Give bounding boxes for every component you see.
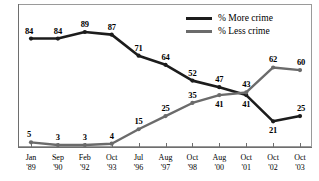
- value-label: 64: [161, 53, 169, 62]
- x-label-year: '01: [240, 163, 252, 173]
- value-label: 43: [242, 80, 250, 89]
- value-label: 60: [297, 58, 305, 67]
- data-point-marker: [110, 33, 114, 37]
- value-label: 3: [56, 133, 60, 142]
- x-label-year: '02: [267, 163, 279, 173]
- value-label: 62: [269, 55, 277, 64]
- crime-perception-line-chart: 8484898771645247412125533415253541436260…: [0, 0, 319, 181]
- x-label-month: Feb: [79, 153, 91, 163]
- x-label-year: '97: [159, 163, 173, 173]
- data-point-marker: [83, 143, 87, 147]
- x-label-year: '96: [134, 163, 143, 173]
- data-point-marker: [83, 30, 87, 34]
- x-label-month: Oct: [294, 153, 306, 163]
- x-label-year: '98: [187, 163, 199, 173]
- legend-label-more-crime: % More crime: [218, 13, 273, 24]
- x-label-year: '89: [26, 163, 37, 173]
- value-label: 3: [83, 133, 87, 142]
- x-axis-label: Oct'02: [267, 153, 279, 172]
- x-label-month: Jan: [26, 153, 37, 163]
- legend-item-more-crime: % More crime: [186, 12, 273, 25]
- x-axis-label: Aug'00: [212, 153, 226, 172]
- data-point-marker: [56, 143, 60, 147]
- x-axis-label: Oct'93: [106, 153, 118, 172]
- value-label: 47: [215, 75, 223, 84]
- legend-label-less-crime: % Less crime: [218, 26, 270, 37]
- x-label-month: Oct: [267, 153, 279, 163]
- legend-swatch-less-crime: [186, 30, 212, 33]
- value-label: 25: [161, 104, 169, 113]
- x-label-year: '90: [52, 163, 64, 173]
- data-point-marker: [298, 68, 302, 72]
- data-point-marker: [271, 65, 275, 69]
- legend: % More crime % Less crime: [186, 12, 273, 38]
- data-point-marker: [137, 54, 141, 58]
- data-point-marker: [190, 79, 194, 83]
- data-point-marker: [110, 142, 114, 146]
- x-axis-label: Oct'98: [187, 153, 199, 172]
- x-label-month: Oct: [240, 153, 252, 163]
- legend-item-less-crime: % Less crime: [186, 25, 273, 38]
- x-axis-label: Aug'97: [159, 153, 173, 172]
- x-label-year: '03: [294, 163, 306, 173]
- data-point-marker: [29, 36, 33, 40]
- value-label: 5: [27, 130, 31, 139]
- data-point-marker: [244, 90, 248, 94]
- x-axis-label: Jan'89: [26, 153, 37, 172]
- legend-swatch-more-crime: [186, 17, 212, 20]
- data-point-marker: [163, 114, 167, 118]
- value-label: 84: [54, 27, 62, 36]
- x-label-month: Oct: [187, 153, 199, 163]
- x-label-month: Aug: [212, 153, 226, 163]
- value-label: 4: [110, 132, 114, 141]
- x-label-year: '00: [212, 163, 226, 173]
- value-label: 71: [135, 44, 143, 53]
- data-point-marker: [163, 63, 167, 67]
- x-label-month: Oct: [106, 153, 118, 163]
- value-label: 84: [25, 27, 33, 36]
- x-axis-label: Jul'96: [134, 153, 143, 172]
- data-point-marker: [56, 36, 60, 40]
- data-point-marker: [271, 119, 275, 123]
- x-label-month: Aug: [159, 153, 173, 163]
- value-label: 87: [108, 23, 116, 32]
- x-axis-label: Sep'90: [52, 153, 64, 172]
- data-point-marker: [217, 93, 221, 97]
- data-point-marker: [190, 101, 194, 105]
- x-axis-label: Oct'03: [294, 153, 306, 172]
- x-label-year: '93: [106, 163, 118, 173]
- value-label: 89: [81, 20, 89, 29]
- value-label: 41: [242, 100, 250, 109]
- value-label: 21: [269, 126, 277, 135]
- value-label: 25: [297, 104, 305, 113]
- x-label-month: Jul: [134, 153, 143, 163]
- x-axis-label: Oct'01: [240, 153, 252, 172]
- value-label: 15: [135, 117, 143, 126]
- data-point-marker: [29, 140, 33, 144]
- data-point-marker: [217, 85, 221, 89]
- value-label: 52: [188, 69, 196, 78]
- value-label: 35: [188, 91, 196, 100]
- data-point-marker: [298, 114, 302, 118]
- value-label: 41: [215, 100, 223, 109]
- x-axis-label: Feb'92: [79, 153, 91, 172]
- x-label-year: '92: [79, 163, 91, 173]
- x-label-month: Sep: [52, 153, 64, 163]
- data-point-marker: [137, 127, 141, 131]
